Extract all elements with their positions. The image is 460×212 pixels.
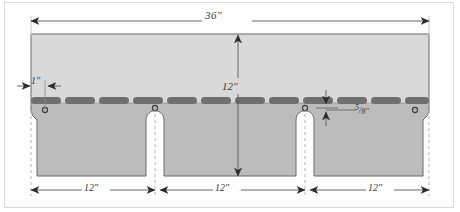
overall-width-dimension [31, 16, 429, 36]
adhesive-strip [371, 97, 401, 104]
dimension-label-tab-width-1: 12" [84, 182, 98, 193]
adhesive-strip [65, 97, 95, 104]
nail-marker [412, 107, 417, 112]
dimension-label-tab-width-2: 12" [215, 182, 229, 193]
strip-offset-unit: " [366, 107, 369, 116]
dimension-label-overall-height: 12" [222, 80, 238, 92]
adhesive-strip [167, 97, 197, 104]
shingle-lower-face [31, 103, 429, 176]
shingle-drawing-canvas [0, 0, 460, 212]
dimension-label-strip-offset: 5/8" [355, 104, 369, 116]
shingle-body [31, 34, 429, 176]
dimension-label-tab-width-3: 12" [368, 182, 382, 193]
adhesive-strip [337, 97, 367, 104]
adhesive-strip [31, 97, 61, 104]
adhesive-strip [99, 97, 129, 104]
shingle-upper-face [31, 34, 429, 103]
adhesive-strip [303, 97, 333, 104]
nail-marker [42, 107, 47, 112]
dimension-label-overall-width: 36" [205, 9, 222, 21]
adhesive-strip [201, 97, 231, 104]
adhesive-strip [269, 97, 299, 104]
shingle-dimension-diagram: 36" 12" 1" 5/8" 12" 12" 12" [0, 0, 460, 212]
adhesive-strip [235, 97, 265, 104]
dimension-label-top-offset: 1" [31, 75, 40, 86]
adhesive-strip [133, 97, 163, 104]
adhesive-strip [405, 97, 429, 104]
